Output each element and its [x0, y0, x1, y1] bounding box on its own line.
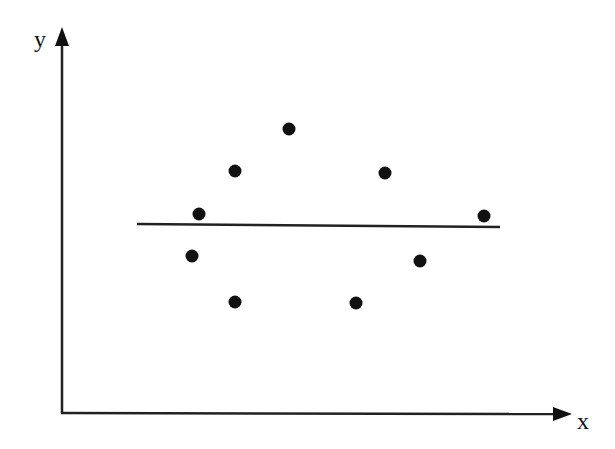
data-point	[350, 297, 363, 310]
y-axis-label: y	[34, 26, 46, 52]
data-point	[193, 208, 206, 221]
scatter-chart: y x	[0, 0, 615, 449]
data-point	[379, 167, 392, 180]
data-point	[186, 250, 199, 263]
data-point	[478, 210, 491, 223]
x-axis-arrow-icon	[553, 407, 572, 421]
data-point	[229, 296, 242, 309]
data-point	[414, 255, 427, 268]
axes: y x	[34, 26, 589, 434]
x-axis	[61, 413, 556, 414]
mean-line	[137, 224, 500, 227]
data-points	[186, 123, 491, 310]
data-point	[229, 165, 242, 178]
y-axis-arrow-icon	[55, 27, 69, 46]
x-axis-label: x	[577, 408, 589, 434]
data-point	[283, 123, 296, 136]
